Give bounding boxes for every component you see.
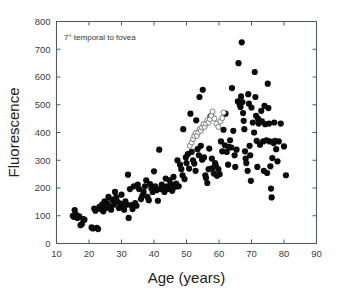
x-tick-label-70: 70 (246, 248, 257, 259)
figure-container: 102030405060708090 010020030040050060070… (0, 0, 337, 295)
data-point-filled (245, 91, 251, 97)
data-point-filled (227, 137, 233, 143)
data-point-filled (201, 154, 207, 160)
data-point-filled (193, 117, 199, 123)
data-point-filled (81, 217, 87, 223)
x-tick-label-30: 30 (116, 248, 127, 259)
data-point-filled (206, 145, 212, 151)
data-point-filled (254, 164, 260, 170)
data-point-filled (220, 127, 226, 133)
x-axis-title: Age (years) (148, 269, 226, 286)
data-point-filled (264, 170, 270, 176)
data-point-filled (225, 162, 231, 168)
data-point-filled (155, 198, 161, 204)
data-point-filled (232, 164, 238, 170)
data-point-filled (268, 185, 274, 191)
data-point-filled (229, 85, 235, 91)
data-point-filled (239, 99, 245, 105)
data-point-filled (271, 119, 277, 125)
x-tick-label-10: 10 (51, 248, 62, 259)
y-tick-label-300: 300 (35, 155, 51, 166)
data-point-filled (191, 160, 197, 166)
x-tick-label-90: 90 (311, 248, 322, 259)
y-tick-label-700: 700 (35, 44, 51, 55)
data-point-filled (241, 118, 247, 124)
y-tick-label-800: 800 (35, 16, 51, 27)
data-point-filled (170, 174, 176, 180)
data-point-filled (193, 168, 199, 174)
data-point-filled (242, 148, 248, 154)
data-point-open (212, 116, 217, 121)
data-point-filled (269, 194, 275, 200)
data-point-filled (204, 180, 210, 186)
data-point-filled (118, 192, 124, 198)
data-point-filled (217, 171, 223, 177)
data-point-filled (243, 160, 249, 166)
data-point-filled (198, 143, 204, 149)
data-point-filled (112, 189, 118, 195)
data-point-filled (239, 39, 245, 45)
y-tick-label-200: 200 (35, 182, 51, 193)
data-point-filled (246, 143, 252, 149)
data-point-filled (186, 165, 192, 171)
data-point-filled (196, 94, 202, 100)
data-point-filled (233, 147, 239, 153)
data-point-filled (269, 155, 275, 161)
x-tick-label-80: 80 (279, 248, 290, 259)
data-point-open (216, 124, 221, 129)
y-tick-label-600: 600 (35, 71, 51, 82)
x-axis-tick-labels: 102030405060708090 (51, 248, 322, 259)
data-point-filled (200, 87, 206, 93)
y-axis-title: Fluorescence (5, 87, 22, 177)
data-point-filled (251, 129, 257, 135)
data-point-filled (125, 172, 131, 178)
y-tick-label-500: 500 (35, 99, 51, 110)
data-point-filled (141, 189, 147, 195)
y-axis-tick-labels: 0100200300400500600700800 (35, 16, 51, 249)
data-point-filled (181, 176, 187, 182)
data-point-filled (232, 152, 238, 158)
plot-annotation: 7° temporal to fovea (64, 33, 136, 42)
data-point-filled (245, 168, 251, 174)
x-tick-label-20: 20 (84, 248, 95, 259)
data-point-filled (241, 126, 247, 132)
x-tick-label-60: 60 (214, 248, 225, 259)
data-point-filled (146, 197, 152, 203)
data-point-filled (230, 128, 236, 134)
data-point-filled (276, 138, 282, 144)
x-tick-label-50: 50 (181, 248, 192, 259)
data-point-filled (265, 105, 271, 111)
y-tick-label-0: 0 (45, 238, 50, 249)
data-point-open (210, 109, 215, 114)
data-point-filled (178, 166, 184, 172)
data-point-filled (189, 149, 195, 155)
y-tick-label-400: 400 (35, 127, 51, 138)
data-point-filled (283, 172, 289, 178)
data-point-filled (151, 168, 157, 174)
data-point-filled (240, 110, 246, 116)
data-point-filled (252, 69, 258, 75)
data-point-filled (274, 158, 280, 164)
data-point-filled (247, 152, 253, 158)
data-point-filled (95, 226, 101, 232)
data-point-filled (133, 203, 139, 209)
data-point-filled (176, 183, 182, 189)
data-point-filled (248, 178, 254, 184)
data-point-filled (235, 60, 241, 66)
data-point-filled (273, 146, 279, 152)
data-series-group (70, 39, 289, 232)
series-0 (70, 39, 289, 232)
data-point-open (220, 116, 225, 121)
data-point-filled (180, 126, 186, 132)
x-tick-label-40: 40 (149, 248, 160, 259)
data-point-filled (278, 121, 284, 127)
data-point-filled (281, 143, 287, 149)
data-point-filled (238, 93, 244, 99)
data-point-filled (187, 111, 193, 117)
data-point-filled (267, 163, 273, 169)
data-point-filled (156, 147, 162, 153)
data-point-filled (248, 104, 254, 110)
data-point-filled (126, 215, 132, 221)
data-point-filled (266, 121, 272, 127)
data-point-filled (265, 81, 271, 87)
